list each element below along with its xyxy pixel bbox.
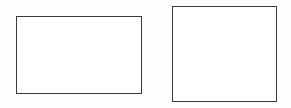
rectangle-right: [172, 6, 277, 102]
diagram-canvas: [0, 0, 291, 108]
rectangle-left: [16, 16, 142, 94]
